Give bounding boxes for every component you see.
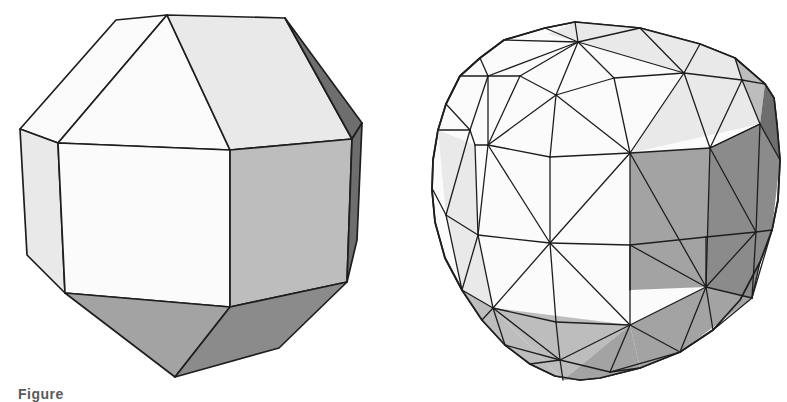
sphere-face <box>630 148 710 290</box>
figure-caption: Figure <box>18 386 64 402</box>
